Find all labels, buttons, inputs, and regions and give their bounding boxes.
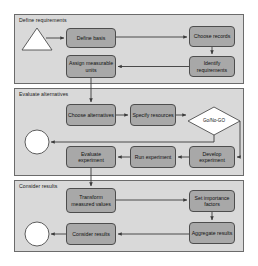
node-aggregate-results[interactable]: Aggregate results (189, 222, 235, 244)
node-label-set-importance-factors: Set importance factors (191, 195, 233, 207)
node-label-transform-measured-values: Transform measured values (68, 194, 114, 206)
node-transform-measured-values[interactable]: Transform measured values (66, 188, 116, 213)
swimlane-label-evaluate-alternatives: Evaluate alternatives (19, 91, 68, 97)
node-label-define-basis: Define basis (68, 35, 114, 41)
node-label-identify-requirements: Identify requirements (191, 60, 233, 72)
node-assign-measurable-units[interactable]: Assign measurable units (66, 55, 116, 78)
node-consider-results[interactable]: Consider results (66, 223, 116, 245)
node-label-aggregate-results: Aggregate results (191, 230, 233, 236)
node-choose-alternatives[interactable]: Choose alternatives (66, 104, 116, 126)
node-run-experiment[interactable]: Run experiment (130, 146, 176, 168)
swimlane-label-consider-results: Consider results (19, 183, 57, 189)
node-develop-experiment[interactable]: Develop experiment (189, 146, 235, 168)
go-no-go-label: Go/No-GO (196, 118, 232, 123)
node-label-develop-experiment: Develop experiment (191, 151, 233, 163)
node-label-evaluate-experiment: Evaluate experiment (68, 151, 114, 163)
node-label-specify-resources: Specify resources (132, 112, 174, 118)
node-specify-resources[interactable]: Specify resources (130, 104, 176, 126)
node-label-consider-results: Consider results (68, 231, 114, 237)
flowchart-canvas: Define requirements Evaluate alternative… (0, 0, 258, 266)
node-label-run-experiment: Run experiment (132, 154, 174, 160)
node-label-choose-alternatives: Choose alternatives (68, 112, 114, 118)
node-define-basis[interactable]: Define basis (66, 28, 116, 48)
node-choose-records[interactable]: Choose records (189, 26, 235, 47)
node-evaluate-experiment[interactable]: Evaluate experiment (66, 146, 116, 168)
node-identify-requirements[interactable]: Identify requirements (189, 56, 235, 77)
node-label-assign-measurable-units: Assign measurable units (68, 60, 114, 72)
node-set-importance-factors[interactable]: Set importance factors (189, 190, 235, 212)
swimlane-label-define-requirements: Define requirements (19, 17, 67, 23)
node-label-choose-records: Choose records (191, 33, 233, 39)
